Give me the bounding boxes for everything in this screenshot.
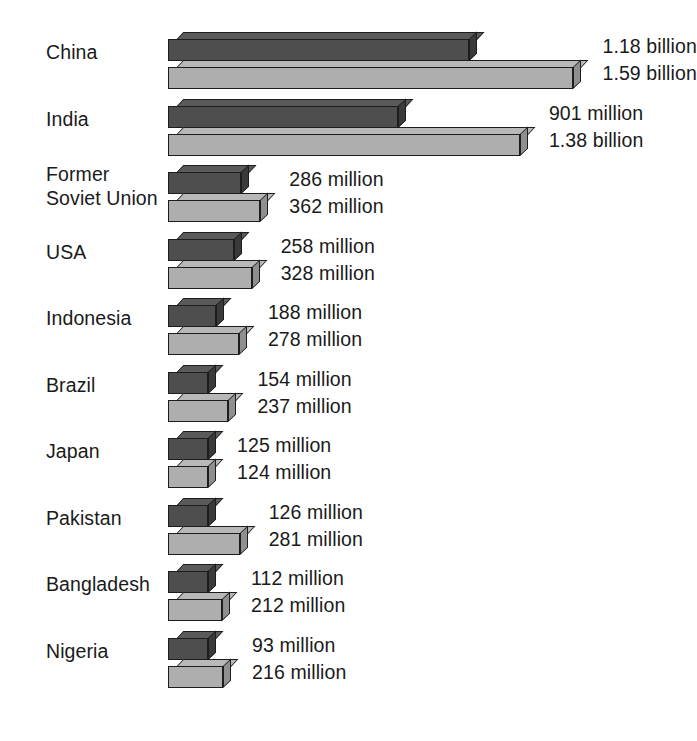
bar-dark-4: [168, 298, 225, 328]
category-label: Indonesia: [46, 306, 166, 330]
bar-front-face: [168, 39, 469, 61]
value-label-projected: 362 million: [289, 194, 383, 218]
value-label-current: 154 million: [257, 367, 351, 391]
bar-front-face: [168, 267, 252, 289]
bar-front-face: [168, 666, 223, 688]
category-label: Former Soviet Union: [46, 162, 166, 210]
category-label: USA: [46, 240, 166, 264]
value-label-projected: 278 million: [268, 327, 362, 351]
value-label-current: 93 million: [252, 633, 335, 657]
value-label-projected: 1.38 billion: [549, 128, 643, 152]
bar-dark-9: [168, 631, 217, 661]
chart-row: Pakistan126 million281 million: [0, 494, 697, 560]
value-label-projected: 124 million: [237, 460, 331, 484]
bar-dark-3: [168, 232, 243, 262]
chart-row: Nigeria93 million216 million: [0, 627, 697, 693]
bar-light-0: [168, 60, 582, 90]
category-label: Brazil: [46, 373, 166, 397]
value-label-current: 1.18 billion: [602, 34, 696, 58]
bar-dark-6: [168, 431, 217, 461]
category-label: Bangladesh: [46, 572, 166, 596]
chart-row: Japan125 million124 million: [0, 427, 697, 493]
bar-side-face: [222, 592, 230, 621]
category-label: China: [46, 40, 166, 64]
chart-row: Indonesia188 million278 million: [0, 294, 697, 360]
value-label-current: 188 million: [268, 300, 362, 324]
bar-front-face: [168, 638, 208, 660]
bar-light-3: [168, 260, 261, 290]
value-label-projected: 281 million: [269, 527, 363, 551]
value-label-current: 258 million: [281, 234, 375, 258]
chart-row: Bangladesh112 million212 million: [0, 560, 697, 626]
bar-light-9: [168, 659, 232, 689]
chart-row: China1.18 billion1.59 billion: [0, 28, 697, 94]
bar-light-2: [168, 193, 269, 223]
category-label: Pakistan: [46, 506, 166, 530]
value-label-projected: 237 million: [257, 394, 351, 418]
chart-row: USA258 million328 million: [0, 228, 697, 294]
value-label-projected: 216 million: [252, 660, 346, 684]
bar-dark-7: [168, 498, 217, 528]
bar-light-8: [168, 592, 231, 622]
bar-front-face: [168, 106, 398, 128]
bar-front-face: [168, 67, 573, 89]
bar-front-face: [168, 599, 222, 621]
bar-light-5: [168, 393, 237, 423]
bar-dark-2: [168, 165, 250, 195]
value-label-projected: 212 million: [251, 593, 345, 617]
bar-light-7: [168, 526, 249, 556]
bar-front-face: [168, 438, 208, 460]
bar-dark-1: [168, 99, 407, 129]
chart-row: Former Soviet Union286 million362 millio…: [0, 161, 697, 227]
bar-front-face: [168, 134, 520, 156]
chart-row: Brazil154 million237 million: [0, 361, 697, 427]
bar-front-face: [168, 533, 240, 555]
category-label: Nigeria: [46, 639, 166, 663]
bar-dark-0: [168, 32, 478, 62]
bar-light-4: [168, 326, 248, 356]
bar-front-face: [168, 571, 208, 593]
bar-front-face: [168, 466, 208, 488]
value-label-current: 125 million: [237, 433, 331, 457]
value-label-projected: 328 million: [281, 261, 375, 285]
bar-dark-5: [168, 365, 217, 395]
bar-front-face: [168, 200, 260, 222]
value-label-current: 126 million: [269, 500, 363, 524]
bar-front-face: [168, 305, 216, 327]
bar-front-face: [168, 372, 208, 394]
bar-side-face: [573, 60, 581, 89]
bar-front-face: [168, 239, 234, 261]
bar-front-face: [168, 172, 241, 194]
bar-front-face: [168, 333, 239, 355]
bar-front-face: [168, 505, 208, 527]
bar-light-1: [168, 127, 529, 157]
category-label: India: [46, 107, 166, 131]
bar-front-face: [168, 400, 228, 422]
bar-dark-8: [168, 564, 217, 594]
value-label-current: 901 million: [549, 101, 643, 125]
category-label: Japan: [46, 439, 166, 463]
value-label-current: 286 million: [289, 167, 383, 191]
bar-light-6: [168, 459, 217, 489]
value-label-projected: 1.59 billion: [602, 61, 696, 85]
population-bar-chart: China1.18 billion1.59 billionIndia901 mi…: [0, 0, 697, 741]
chart-row: India901 million1.38 billion: [0, 95, 697, 161]
bar-side-face: [260, 193, 268, 222]
value-label-current: 112 million: [251, 566, 344, 590]
